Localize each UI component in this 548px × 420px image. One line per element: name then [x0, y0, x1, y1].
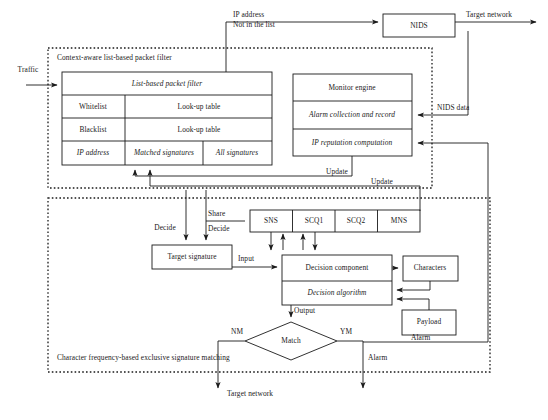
box-ip-reputation-label: IP reputation computation	[312, 139, 393, 148]
edge-share-label: Share	[208, 210, 225, 219]
box-ip-address-label: IP address	[77, 149, 109, 158]
zone-lower-label: Character frequency-based exclusive sign…	[57, 354, 230, 363]
edge-ym	[337, 341, 363, 388]
edge-target-network-bottom-label: Target network	[227, 390, 273, 399]
box-mns-label: MNS	[391, 217, 407, 226]
edge-alarm-right-label: Alarm	[411, 334, 430, 343]
shape-match-label: Match	[281, 337, 300, 346]
edge-nids-data-label: NIDS data	[437, 104, 469, 113]
box-characters-label: Characters	[414, 264, 447, 273]
edge-nm	[218, 341, 245, 388]
edge-decide-left-label: Decide	[154, 224, 176, 233]
edge-nm-label: NM	[231, 328, 243, 337]
edge-decide-right-label: Decide	[208, 225, 230, 234]
box-whitelist-label: Whitelist	[79, 103, 107, 112]
edge-characters-decision	[397, 281, 430, 290]
edge-input-label: Input	[238, 255, 254, 264]
box-monitor-engine-label: Monitor engine	[328, 84, 375, 93]
box-sns-label: SNS	[264, 217, 278, 226]
architecture-diagram: Context-aware list-based packet filter C…	[0, 0, 548, 420]
edge-payload-decision	[397, 299, 429, 310]
box-decision-component-label: Decision component	[306, 264, 369, 273]
edge-update-right-label: Update	[371, 178, 393, 187]
edge-update-left-label: Update	[326, 168, 348, 177]
box-list-filter-label: List-based packet filter	[132, 80, 203, 89]
box-alarm-collection-label: Alarm collection and record	[309, 111, 395, 120]
edge-target-network-top-label: Target network	[466, 11, 512, 20]
box-whitelist-table-label: Look-up table	[178, 103, 221, 112]
box-matched-signatures-label: Matched signatures	[134, 149, 194, 158]
edge-ip-address-label-line2: Not in the list	[233, 21, 275, 30]
box-payload-label: Payload	[417, 318, 442, 327]
box-decision-algorithm-label: Decision algorithm	[307, 289, 366, 298]
box-scq2-label: SCQ2	[347, 217, 365, 226]
edge-ym-label: YM	[340, 328, 352, 337]
zone-upper-label: Context-aware list-based packet filter	[57, 54, 172, 63]
box-nids-label: NIDS	[410, 22, 428, 31]
edge-output-label: Output	[294, 307, 315, 316]
edge-traffic-label: Traffic	[18, 66, 39, 75]
box-scq1-label: SCQ1	[305, 217, 323, 226]
edge-ip-address-label-line1: IP address	[233, 11, 264, 20]
box-all-signatures-label: All signatures	[216, 149, 258, 158]
box-blacklist-table-label: Look-up table	[178, 126, 221, 135]
box-target-signature-label: Target signature	[167, 253, 216, 262]
box-blacklist-label: Blacklist	[79, 126, 106, 135]
edge-alarm-bottom-label: Alarm	[368, 354, 387, 363]
edge-ip-address-to-nids	[226, 22, 378, 72]
